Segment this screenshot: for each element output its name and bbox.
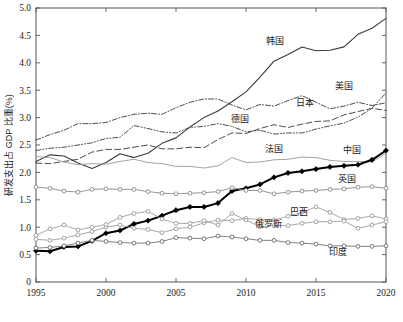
y-tick-label: 3.5 [19, 86, 31, 96]
series-marker [328, 187, 332, 191]
series-marker [244, 218, 248, 222]
series-label-日本: 日本 [296, 97, 314, 108]
y-tick-label: 2.5 [19, 140, 31, 150]
series-label-巴西: 巴西 [290, 207, 308, 217]
series-marker [146, 190, 150, 194]
series-line [36, 93, 386, 151]
series-marker [34, 237, 38, 241]
x-tick-label: 2020 [377, 288, 396, 298]
series-marker [216, 190, 220, 194]
series-marker [146, 209, 150, 213]
series-line [36, 211, 386, 235]
series-marker [62, 236, 66, 240]
series-marker [132, 187, 136, 191]
series-marker [90, 225, 94, 229]
series-marker [370, 185, 374, 189]
series-marker [370, 244, 374, 248]
series-marker [118, 215, 122, 219]
series-marker [146, 241, 150, 245]
x-tick-label: 2015 [307, 288, 326, 298]
series-marker [272, 238, 276, 242]
y-tick-label: 4.5 [19, 31, 31, 41]
series-marker [202, 237, 206, 241]
series-marker [299, 169, 304, 174]
series-marker [90, 238, 94, 242]
chart-canvas: 00.51.01.52.02.53.03.54.04.55.0199520002… [0, 0, 403, 322]
series-marker [384, 244, 388, 248]
series-marker [90, 230, 94, 234]
y-tick-label: 0.5 [19, 250, 31, 260]
series-line [36, 150, 386, 251]
y-tick-label: 2.0 [19, 168, 31, 178]
series-label-德国: 德国 [231, 113, 249, 124]
series-英国 [34, 185, 388, 196]
series-marker [174, 221, 178, 225]
series-marker [118, 241, 122, 245]
series-marker [384, 220, 388, 224]
series-marker [160, 191, 164, 195]
series-marker [314, 242, 318, 246]
y-axis-title: 研发支出占 GDP 比重(%) [3, 94, 14, 195]
series-marker [174, 192, 178, 196]
series-marker [104, 223, 108, 227]
series-marker [34, 246, 38, 250]
series-marker [201, 204, 206, 209]
series-marker [244, 237, 248, 241]
series-marker [132, 241, 136, 245]
series-marker [118, 187, 122, 191]
series-marker [62, 189, 66, 193]
y-tick-label: 1.0 [19, 223, 31, 233]
series-line [36, 96, 386, 140]
series-marker [258, 189, 262, 193]
series-marker [146, 227, 150, 231]
series-label-美国: 美国 [335, 80, 353, 91]
series-marker [202, 219, 206, 223]
series-marker [342, 219, 346, 223]
series-marker [230, 186, 234, 190]
rd-expenditure-chart: 00.51.01.52.02.53.03.54.04.55.0199520002… [0, 0, 403, 322]
series-marker [160, 231, 164, 235]
series-marker [145, 218, 150, 223]
series-marker [187, 204, 192, 209]
series-marker [314, 189, 318, 193]
series-marker [341, 163, 346, 168]
series-marker [356, 226, 360, 230]
series-日本 [36, 96, 386, 140]
series-marker [216, 218, 220, 222]
series-marker [370, 223, 374, 227]
y-tick-label: 5.0 [19, 3, 31, 13]
series-marker [300, 241, 304, 245]
series-德国 [36, 108, 386, 163]
series-marker [76, 241, 80, 245]
series-marker [216, 234, 220, 238]
x-tick-label: 2005 [167, 288, 186, 298]
series-marker [328, 211, 332, 215]
series-marker [244, 189, 248, 193]
series-marker [160, 240, 164, 244]
series-label-韩国: 韩国 [266, 35, 284, 46]
series-marker [314, 220, 318, 224]
series-label-俄罗斯: 俄罗斯 [255, 218, 282, 229]
series-marker [132, 226, 136, 230]
series-marker [286, 224, 290, 228]
y-tick-label: 0 [26, 277, 31, 287]
series-marker [286, 241, 290, 245]
series-label-英国: 英国 [338, 173, 356, 184]
series-marker [356, 217, 360, 221]
series-line [36, 207, 386, 240]
x-tick-label: 1995 [27, 288, 46, 298]
series-marker [34, 234, 38, 238]
series-marker [76, 228, 80, 232]
series-韩国 [36, 18, 386, 168]
series-marker [62, 223, 66, 227]
series-marker [356, 244, 360, 248]
series-marker [328, 220, 332, 224]
series-marker [314, 205, 318, 209]
series-marker [384, 186, 388, 190]
series-marker [300, 189, 304, 193]
series-marker [48, 186, 52, 190]
series-marker [174, 227, 178, 231]
series-marker [160, 217, 164, 221]
series-marker [230, 212, 234, 216]
series-marker [355, 162, 360, 167]
